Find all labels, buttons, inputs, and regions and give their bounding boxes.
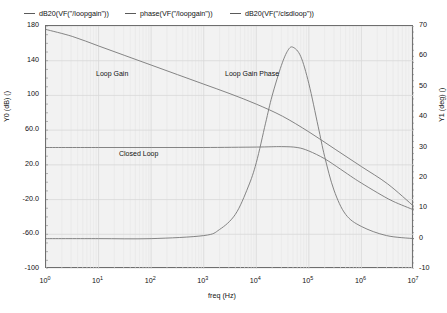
legend-item-label: dB20(VF("/clsdloop")) xyxy=(245,9,314,18)
x-tick-label-5: 105 xyxy=(294,274,322,285)
y0-axis-title: Y0 (dB) () xyxy=(2,91,11,122)
y1-tick-label-6: 10 xyxy=(419,203,447,211)
annotation-loop-gain: Loop Gain xyxy=(96,70,128,78)
plot-area[interactable] xyxy=(45,25,413,268)
x-tick-label-3: 103 xyxy=(189,274,217,285)
x-tick-label-6: 106 xyxy=(346,274,374,285)
legend-item-clsdloop-mag[interactable]: dB20(VF("/clsdloop")) xyxy=(230,5,314,21)
y1-tick-label-7: 0 xyxy=(419,234,447,242)
chart-legend: dB20(VF("/loopgain")) phase(VF("/loopgai… xyxy=(0,5,444,21)
y1-tick-label-8: -10 xyxy=(419,264,447,272)
legend-line-swatch-icon xyxy=(230,13,241,14)
x-tick-label-0: 100 xyxy=(31,274,59,285)
y0-tick-label-5: -20.0 xyxy=(6,195,39,203)
x-tick-label-4: 104 xyxy=(241,274,269,285)
legend-item-loopgain-mag[interactable]: dB20(VF("/loopgain")) xyxy=(24,5,109,21)
legend-item-label: phase(VF("/loopgain")) xyxy=(140,9,213,18)
legend-item-label: dB20(VF("/loopgain")) xyxy=(39,9,109,18)
legend-line-swatch-icon xyxy=(24,13,35,14)
y1-tick-label-0: 70 xyxy=(419,21,447,29)
legend-item-loopgain-phase[interactable]: phase(VF("/loopgain")) xyxy=(125,5,213,21)
y0-tick-label-6: -60.0 xyxy=(6,229,39,237)
annotation-loop-gain-phase: Loop Gain Phase xyxy=(225,70,279,78)
y0-tick-label-0: 180 xyxy=(6,21,39,29)
plot-canvas xyxy=(46,26,414,269)
x-tick-label-1: 101 xyxy=(84,274,112,285)
legend-line-swatch-icon xyxy=(125,13,136,14)
y1-tick-label-1: 60 xyxy=(419,51,447,59)
y0-tick-label-4: 20.0 xyxy=(6,160,39,168)
y0-tick-label-3: 60.0 xyxy=(6,125,39,133)
y0-tick-label-1: 140 xyxy=(6,56,39,64)
x-tick-label-2: 102 xyxy=(136,274,164,285)
y1-tick-label-5: 20 xyxy=(419,173,447,181)
y1-tick-label-4: 30 xyxy=(419,143,447,151)
y1-axis-title: Y1 (deg) () xyxy=(437,88,446,122)
y0-tick-label-7: -100 xyxy=(6,264,39,272)
x-axis-title: freq (Hz) xyxy=(0,291,444,300)
x-tick-label-7: 107 xyxy=(399,274,427,285)
annotation-closed-loop: Closed Loop xyxy=(119,150,158,158)
